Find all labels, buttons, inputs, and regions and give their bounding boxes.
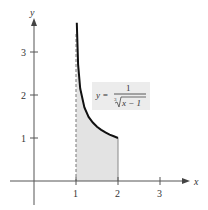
x-tick-3: 3 xyxy=(157,188,162,199)
y-axis-label: y xyxy=(29,7,35,18)
x-axis-label: x xyxy=(193,176,199,187)
y-axis-arrow-icon xyxy=(31,18,37,26)
y-tick-3: 3 xyxy=(21,47,26,58)
equation-lhs: y = xyxy=(95,90,108,100)
x-tick-1: 1 xyxy=(73,188,78,199)
chart: x y 1 2 3 1 2 3 y = 1 3 x − 1 xyxy=(0,0,208,210)
equation-denominator: x − 1 xyxy=(121,98,141,108)
equation-numerator: 1 xyxy=(126,83,131,93)
x-axis-arrow-icon xyxy=(182,178,190,184)
y-tick-1: 1 xyxy=(21,133,26,144)
x-tick-2: 2 xyxy=(115,188,120,199)
y-tick-2: 2 xyxy=(21,90,26,101)
